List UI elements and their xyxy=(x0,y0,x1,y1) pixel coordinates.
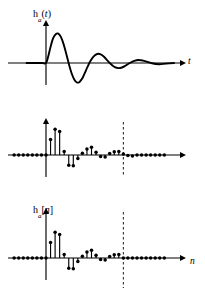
stem-dot xyxy=(53,127,57,131)
stem-dot xyxy=(122,256,126,260)
x-axis-arrow-continuous xyxy=(180,60,186,66)
stem-dot xyxy=(72,267,76,271)
stem-dot xyxy=(99,155,103,159)
stem-dot xyxy=(26,153,30,157)
stem-dot xyxy=(99,258,103,262)
stem-dot xyxy=(72,164,76,168)
stem-dot xyxy=(117,253,121,257)
stem-dot xyxy=(40,256,44,260)
sampled-stem-plot xyxy=(0,100,205,195)
stem-dot xyxy=(158,256,162,260)
stem-dot xyxy=(62,253,66,257)
stem-dot xyxy=(17,153,21,157)
stem-dot xyxy=(67,163,71,167)
stem-dot xyxy=(35,153,39,157)
stem-dot xyxy=(108,152,112,156)
stem-dot xyxy=(108,255,112,259)
stem-dot xyxy=(31,153,35,157)
x-axis-arrow xyxy=(180,152,186,158)
y-axis-arrow xyxy=(43,118,49,124)
truncated-stem-plot xyxy=(0,190,205,298)
stem-dot xyxy=(149,256,153,260)
stem-dot xyxy=(90,248,94,252)
stem-dot xyxy=(149,153,153,157)
stem-dot xyxy=(144,256,148,260)
stem-dot xyxy=(113,150,117,154)
stem-dot xyxy=(140,256,144,260)
stem-dot xyxy=(31,256,35,260)
continuous-plot xyxy=(0,0,205,100)
signal-label-subscript: a xyxy=(38,16,42,24)
stem-dot xyxy=(163,256,167,260)
stem-dot xyxy=(81,254,85,258)
stem-dot xyxy=(90,145,94,149)
stem-dot xyxy=(22,153,26,157)
stem-dot xyxy=(12,153,16,157)
stem-dot xyxy=(126,256,129,260)
stem-dot xyxy=(144,153,148,157)
stem-dot xyxy=(135,256,139,260)
impulse-response-curve xyxy=(27,33,174,82)
stem-dot xyxy=(49,241,53,245)
stem-dot xyxy=(135,153,139,157)
stem-dot xyxy=(113,253,117,257)
stem-dot xyxy=(76,260,80,264)
stem-dot xyxy=(12,256,16,260)
stem-dot xyxy=(103,258,107,262)
stem-dot xyxy=(67,266,71,270)
stem-dot xyxy=(44,256,48,260)
stem-dot xyxy=(140,153,144,157)
stem-dot xyxy=(35,256,39,260)
stem-dot xyxy=(131,256,135,260)
stem-dot xyxy=(85,147,89,151)
stem-dot xyxy=(94,254,98,257)
signal-figure: ha(t) t ha[n] n hN[n] n N xyxy=(0,0,205,298)
stem-dot xyxy=(58,130,62,134)
signal-label-continuous: ha(t) xyxy=(33,9,51,22)
stem-dot xyxy=(94,151,98,155)
stem-dot xyxy=(158,153,162,157)
stem-dot xyxy=(58,233,62,237)
stem-dot xyxy=(122,152,126,156)
stem-dot xyxy=(26,256,30,260)
stem-dot xyxy=(117,150,121,154)
stem-dot xyxy=(49,138,53,142)
stem-dot xyxy=(81,151,85,155)
panel-truncated-signal: hN[n] n N xyxy=(0,190,205,298)
stem-dot xyxy=(53,230,57,234)
stem-dot xyxy=(76,157,80,161)
stem-dot xyxy=(17,256,21,260)
x-axis-label-continuous: t xyxy=(188,57,191,67)
stem-dot xyxy=(44,153,48,157)
x-axis-arrow xyxy=(180,255,186,261)
stem-dot xyxy=(153,256,157,260)
stem-dot xyxy=(85,250,89,254)
stem-dot xyxy=(103,155,107,159)
stem-dot xyxy=(126,154,129,158)
stem-dot xyxy=(40,153,44,157)
stem-dot xyxy=(62,150,66,154)
signal-label-close: ) xyxy=(48,8,51,19)
stem-dot xyxy=(153,153,157,157)
stem-dot xyxy=(131,154,135,158)
y-axis-arrow xyxy=(43,208,49,214)
panel-continuous-signal: ha(t) t xyxy=(0,0,205,100)
panel-sampled-signal: ha[n] n xyxy=(0,100,205,195)
stem-dot xyxy=(22,256,26,260)
stem-dot xyxy=(163,153,167,157)
